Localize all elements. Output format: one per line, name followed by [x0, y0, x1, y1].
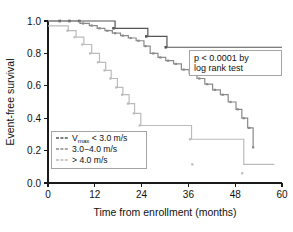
x-tick-label: 48: [230, 189, 242, 200]
censor-marker: [183, 69, 185, 71]
y-tick-label: 1.0: [27, 16, 41, 27]
censor-marker: [191, 163, 193, 165]
pvalue-annotation-box: p < 0.0001 by log rank test: [189, 50, 281, 75]
y-tick-label: 0.2: [27, 145, 41, 156]
censor-marker: [189, 138, 191, 140]
censor-marker: [243, 117, 245, 119]
curve-path: [48, 21, 282, 47]
censor-marker: [81, 43, 83, 45]
censor-marker: [82, 22, 84, 24]
censor-marker: [127, 103, 129, 105]
censor-marker: [109, 77, 111, 79]
censor-marker: [137, 40, 139, 42]
censor-marker: [152, 52, 154, 54]
censor-marker: [133, 112, 135, 114]
censor-marker: [130, 37, 132, 39]
legend-label-3: > 4.0 m/s: [72, 155, 108, 165]
censor-marker: [175, 63, 177, 65]
censor-marker: [121, 94, 123, 96]
censor-marker: [122, 34, 124, 36]
censor-marker: [115, 86, 117, 88]
censor-marker: [198, 77, 200, 79]
censor-marker: [236, 108, 238, 110]
legend-label-2: 3.0−4.0 m/s: [72, 144, 117, 154]
y-axis-title: Event-free survival: [4, 59, 16, 146]
censor-marker: [97, 61, 99, 63]
x-axis-title-text: Time from enrollment (months): [93, 206, 236, 218]
censor-marker: [106, 30, 108, 32]
y-axis-title-text: Event-free survival: [4, 59, 16, 146]
censor-marker: [206, 83, 208, 85]
censor-marker: [112, 27, 115, 30]
censor-marker: [159, 56, 161, 58]
censor-marker: [91, 24, 93, 26]
chart-axes: 0.00.20.40.60.81.0 01224364860: [27, 16, 288, 200]
censor-marker: [103, 69, 105, 71]
censor-marker: [144, 45, 146, 47]
curve-path: [48, 21, 253, 147]
x-tick-label: 36: [183, 189, 195, 200]
censor-marker: [145, 35, 148, 38]
censor-marker: [114, 32, 116, 34]
x-tick-label: 24: [136, 189, 148, 200]
censor-marker: [89, 52, 91, 54]
x-tick-label: 0: [45, 189, 51, 200]
y-tick-label: 0.0: [27, 178, 41, 189]
pvalue-line-1: p < 0.0001 by: [194, 53, 249, 63]
survival-curve-2: [48, 21, 254, 148]
censor-marker: [222, 94, 224, 96]
x-tick-label: 60: [276, 189, 288, 200]
y-tick-label: 0.8: [27, 48, 41, 59]
censor-marker: [241, 172, 243, 174]
x-tick-label: 12: [89, 189, 101, 200]
y-axis-ticks: 0.00.20.40.60.81.0: [27, 16, 48, 189]
y-tick-label: 0.6: [27, 80, 41, 91]
censor-marker: [66, 30, 68, 32]
censor-marker: [252, 146, 254, 148]
censor-marker: [229, 101, 231, 103]
censor-marker: [167, 60, 169, 62]
censor-marker: [73, 36, 75, 38]
pvalue-line-2: log rank test: [194, 63, 244, 73]
censor-marker: [214, 89, 216, 91]
kaplan-meier-figure: 0.00.20.40.60.81.0 01224364860 Event-fre…: [0, 0, 293, 232]
censor-marker: [139, 124, 141, 126]
censor-marker: [164, 46, 167, 49]
y-tick-label: 0.4: [27, 113, 41, 124]
x-axis-ticks: 01224364860: [45, 183, 288, 200]
survival-chart: 0.00.20.40.60.81.0 01224364860 Event-fre…: [0, 0, 293, 232]
censor-marker: [248, 127, 250, 129]
censor-marker: [98, 27, 100, 29]
legend-box: Vmax < 3.0 m/s3.0−4.0 m/s> 4.0 m/s: [51, 131, 146, 168]
